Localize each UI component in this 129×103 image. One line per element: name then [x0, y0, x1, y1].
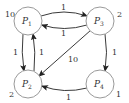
edge-p1-p2-label: 1: [13, 48, 18, 57]
edge-p3-p1: [42, 25, 87, 29]
edge-p3-p1-label: 1: [61, 29, 66, 38]
graph-diagram: P1 P3 P2 P4 10 2 2 1 1 1 1 1 10 1 1: [0, 0, 129, 103]
edge-p1-p3-label: 1: [61, 3, 66, 12]
node-p3-weight: 2: [117, 10, 122, 19]
node-p1-weight: 10: [5, 10, 15, 19]
edge-p2-p1-label: 1: [39, 48, 44, 57]
edge-p1-p3: [41, 12, 87, 16]
edge-p1-p2: [22, 34, 24, 71]
edge-p3-p4-label: 1: [112, 48, 117, 57]
edge-p2-p1: [33, 34, 35, 71]
node-p4-weight: 1: [116, 90, 121, 99]
edge-p3-p4: [105, 34, 107, 71]
edge-p4-p2-label: 1: [66, 93, 71, 102]
node-p2-weight: 2: [9, 90, 14, 99]
edge-p4-p2: [42, 86, 87, 91]
edge-p3-p2-label: 10: [68, 55, 78, 64]
